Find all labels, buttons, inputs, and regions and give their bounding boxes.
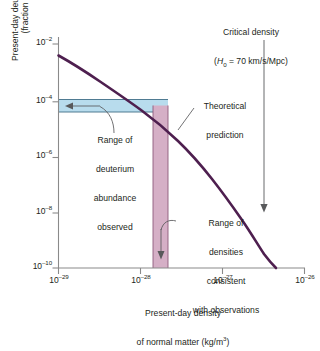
x-tick-label-1e-29: 10–29: [44, 276, 74, 286]
deuterium-line2: deuterium: [80, 165, 150, 175]
deuterium-line1: Range of: [80, 136, 150, 146]
critical-density-line2: (H0 = 70 km/s/Mpc): [189, 57, 313, 67]
x-tick-label-1e-26: 10–26: [290, 276, 320, 286]
densities-line1: Range of: [176, 219, 276, 229]
theoretical-prediction-label: Theoretical prediction: [186, 83, 264, 160]
x-tick-label-1e-27: 10–27: [208, 276, 238, 286]
y-axis-ticks: [53, 44, 59, 268]
y-axis-title: Present-day deuterium abundance (fractio…: [10, 0, 40, 90]
y-axis-title-line1: Present-day deuterium abundance: [10, 0, 20, 90]
y-axis-title-line2: (fraction by number): [20, 0, 30, 90]
deuterium-line4: observed: [80, 223, 150, 233]
critical-density-label: Critical density (H0 = 70 km/s/Mpc): [189, 9, 313, 86]
x-axis-title-line2: of normal matter (kg/m3): [108, 338, 258, 348]
theoretical-line1: Theoretical: [186, 102, 264, 112]
x-axis-title: Present-day density of normal matter (kg…: [108, 290, 258, 351]
x-axis-title-line1: Present-day density: [108, 309, 258, 319]
y-tick-label-1e-6: 10–6: [24, 151, 52, 161]
x-tick-label-1e-28: 10–28: [126, 276, 156, 286]
theoretical-line2: prediction: [186, 131, 264, 141]
y-tick-label-1e-10: 10–10: [20, 262, 52, 272]
deuterium-line3: abundance: [80, 194, 150, 204]
critical-density-line1: Critical density: [189, 28, 313, 38]
deuterium-range-label: Range of deuterium abundance observed: [80, 117, 150, 252]
y-axis-title-inner: Present-day deuterium abundance (fractio…: [10, 0, 30, 90]
y-tick-label-1e-8: 10–8: [24, 207, 52, 217]
y-tick-label-1e-4: 10–4: [24, 96, 52, 106]
densities-line2: densities: [176, 248, 276, 258]
h0-value: = 70 km/s/Mpc): [227, 56, 288, 66]
